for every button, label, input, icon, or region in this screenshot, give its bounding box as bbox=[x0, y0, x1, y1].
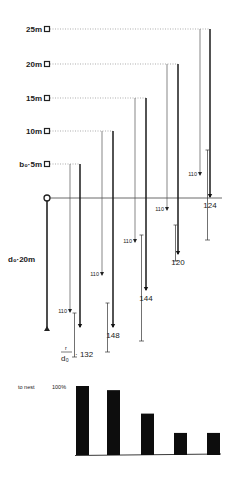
release-marker: 20m bbox=[26, 60, 178, 69]
predicted-arrow-icon bbox=[68, 309, 72, 313]
predicted-arrow-icon bbox=[133, 239, 137, 243]
trace-5m: 110· 132 bbox=[58, 164, 94, 359]
trace-25m: 110124 bbox=[188, 29, 217, 240]
observed-arrow-icon bbox=[208, 194, 212, 198]
bar-series bbox=[76, 386, 220, 455]
predicted-value-label: 110 bbox=[155, 206, 164, 212]
bar-10m bbox=[107, 390, 120, 455]
bar-5m bbox=[76, 386, 89, 455]
release-marker: 25m bbox=[26, 25, 210, 34]
bar-20m bbox=[174, 433, 187, 455]
release-distance-label: 25m bbox=[26, 25, 42, 34]
trace-20m: 110120 bbox=[155, 64, 185, 267]
trace-15m: 110144 bbox=[123, 98, 153, 341]
traces: 110· 132110148110144110120110124 bbox=[58, 29, 217, 359]
release-point-square-icon bbox=[45, 27, 50, 32]
predicted-arrow-icon bbox=[165, 207, 169, 211]
predicted-value-label: 110 bbox=[58, 308, 67, 314]
observed-arrow-icon bbox=[111, 324, 115, 328]
diagram-svg: d₀·20m 25m20m15m10mb₀·5m 110· 1321101481… bbox=[0, 0, 227, 486]
bar-chart-ymax-label: 100% bbox=[52, 384, 66, 390]
bar-25m bbox=[207, 433, 220, 455]
bar-chart-ylabel: to nest bbox=[18, 384, 35, 390]
svg-text:r: r bbox=[65, 345, 67, 351]
destination-distance-label: d₀·20m bbox=[8, 255, 35, 264]
release-distance-label: 20m bbox=[26, 60, 42, 69]
destination-triangle-icon bbox=[44, 326, 50, 331]
homing-ratio-value: · 132 bbox=[75, 350, 94, 359]
release-point-square-icon bbox=[45, 129, 50, 134]
svg-text:d₀: d₀ bbox=[61, 354, 69, 363]
homing-ratio-value: 148 bbox=[106, 331, 120, 340]
release-distance-label: 15m bbox=[26, 94, 42, 103]
predicted-value-label: 110 bbox=[90, 271, 99, 277]
release-distance-label: 10m bbox=[26, 127, 42, 136]
predicted-arrow-icon bbox=[198, 172, 202, 176]
predicted-value-label: 110 bbox=[123, 238, 132, 244]
release-point-square-icon bbox=[45, 162, 50, 167]
predicted-value-label: 110 bbox=[188, 171, 197, 177]
observed-arrow-icon bbox=[144, 287, 148, 291]
homing-ratio-value: 144 bbox=[139, 294, 153, 303]
homing-diagram: d₀·20m 25m20m15m10mb₀·5m 110· 1321101481… bbox=[0, 0, 227, 486]
predicted-arrow-icon bbox=[100, 272, 104, 276]
homing-ratio-value: 124 bbox=[203, 201, 217, 210]
homing-ratio-value: 120 bbox=[171, 258, 185, 267]
release-point-square-icon bbox=[45, 96, 50, 101]
bar-15m bbox=[141, 414, 154, 455]
ratio-label: r d₀ bbox=[61, 345, 72, 363]
release-marker: 10m bbox=[26, 127, 113, 136]
trace-10m: 110148 bbox=[90, 131, 120, 352]
observed-arrow-icon bbox=[78, 324, 82, 328]
release-point-square-icon bbox=[45, 62, 50, 67]
release-distance-label: b₀·5m bbox=[19, 160, 42, 169]
origin-circle-icon bbox=[44, 195, 50, 201]
release-markers: 25m20m15m10mb₀·5m bbox=[19, 25, 210, 169]
observed-arrow-icon bbox=[176, 251, 180, 255]
release-marker: b₀·5m bbox=[19, 160, 80, 169]
release-marker: 15m bbox=[26, 94, 146, 103]
